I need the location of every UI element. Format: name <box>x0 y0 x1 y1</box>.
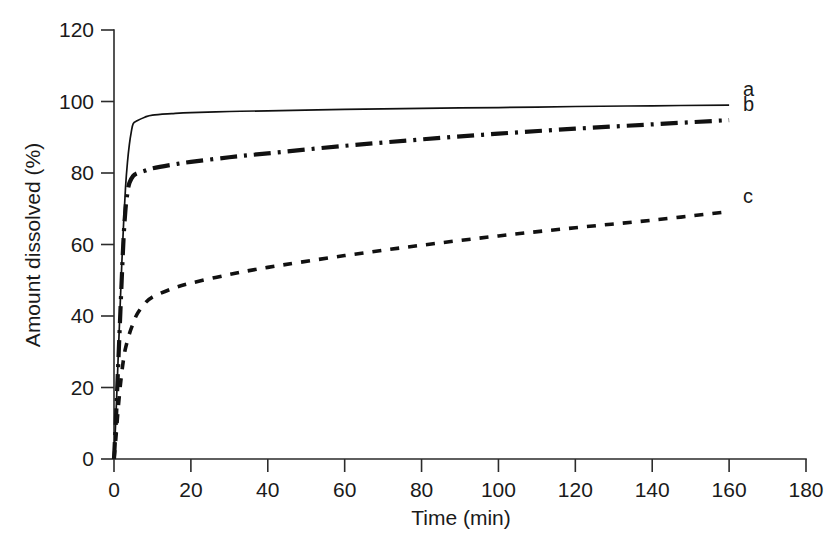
x-tick-label: 80 <box>410 478 433 501</box>
x-tick-label: 160 <box>712 478 747 501</box>
dissolution-profile-figure: 020406080100120 020406080100120140160180… <box>0 0 839 553</box>
x-axis-title: Time (min) <box>411 506 511 529</box>
series-labels-group: abc <box>743 78 755 207</box>
x-tick-label: 180 <box>788 478 823 501</box>
y-tick-label: 60 <box>71 233 94 256</box>
x-axis-ticks: 020406080100120140160180 <box>108 459 823 501</box>
x-tick-label: 40 <box>256 478 279 501</box>
curve-c <box>114 212 729 459</box>
y-axis-ticks: 020406080100120 <box>59 18 114 470</box>
y-tick-label: 20 <box>71 376 94 399</box>
y-tick-label: 120 <box>59 18 94 41</box>
x-tick-label: 140 <box>635 478 670 501</box>
series-label-b: b <box>743 93 754 115</box>
y-tick-label: 0 <box>82 447 94 470</box>
x-tick-label: 20 <box>179 478 202 501</box>
axis-lines <box>114 30 806 459</box>
x-tick-label: 60 <box>333 478 356 501</box>
y-tick-label: 100 <box>59 90 94 113</box>
data-curves <box>114 105 729 459</box>
y-tick-label: 80 <box>71 161 94 184</box>
curve-b <box>114 120 729 459</box>
chart-canvas: 020406080100120 020406080100120140160180… <box>0 0 839 553</box>
curve-a <box>114 105 729 459</box>
y-tick-label: 40 <box>71 304 94 327</box>
x-tick-label: 100 <box>481 478 516 501</box>
x-tick-label: 120 <box>558 478 593 501</box>
series-label-c: c <box>743 185 753 207</box>
y-axis-title: Amount dissolved (%) <box>21 143 44 347</box>
x-tick-label: 0 <box>108 478 120 501</box>
